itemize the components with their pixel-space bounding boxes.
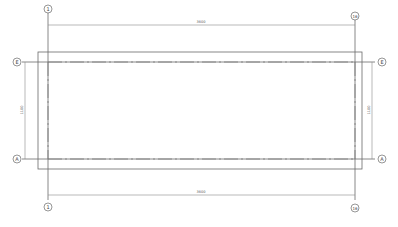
svg-text:1: 1 <box>46 6 49 12</box>
dimension-bottom-text: 3600 <box>197 190 206 194</box>
grid-bubble-a-right: A <box>378 155 386 163</box>
svg-text:A: A <box>380 156 384 162</box>
svg-text:A: A <box>15 156 19 162</box>
grid-bubble-1-bottom: 1 <box>44 203 52 211</box>
grid-bubble-a-left: A <box>13 155 21 163</box>
floor-plan-drawing: 3600 3600 1100 1100 1 1 16 16 E E A A <box>0 0 398 227</box>
dimension-left-text: 1100 <box>20 106 24 115</box>
outer-wall-outline <box>38 52 362 169</box>
grid-bubble-e-right: E <box>378 58 386 66</box>
grid-bubble-16-bottom: 16 <box>351 204 359 212</box>
grid-bubble-1-top: 1 <box>44 5 52 13</box>
svg-text:16: 16 <box>352 206 358 211</box>
grid-bubble-e-left: E <box>13 58 21 66</box>
grid-bubble-16-top: 16 <box>351 12 359 20</box>
dimension-right-text: 1100 <box>367 106 371 115</box>
svg-text:1: 1 <box>46 204 49 210</box>
dimension-top-text: 3600 <box>197 20 206 24</box>
svg-text:E: E <box>380 59 383 65</box>
svg-text:16: 16 <box>352 14 358 19</box>
svg-text:E: E <box>15 59 18 65</box>
